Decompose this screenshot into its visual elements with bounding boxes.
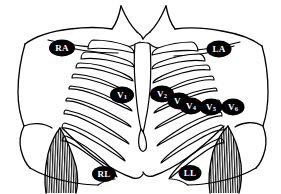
electrode-label-subscript: 5 — [213, 106, 216, 113]
electrode-label-subscript: 4 — [193, 105, 196, 112]
electrode-label: V — [206, 103, 213, 112]
electrode-marker-ll: LL — [179, 165, 202, 181]
electrode-label: V — [186, 102, 193, 111]
electrode-label: V — [228, 103, 235, 112]
electrode-label: LL — [184, 169, 196, 178]
electrode-marker-v1: V1 — [110, 87, 134, 104]
xiphoid-process — [139, 129, 147, 151]
electrode-marker-ra: RA — [49, 40, 75, 57]
electrode-marker-rl: RL — [92, 166, 116, 182]
electrode-label: V — [117, 91, 124, 100]
electrode-label: RL — [98, 170, 111, 179]
electrode-label-subscript: 2 — [164, 93, 167, 100]
electrode-label: V — [157, 90, 164, 99]
electrode-marker-v5: V5 — [200, 99, 223, 116]
electrode-label-subscript: 6 — [235, 106, 238, 113]
electrode-label: LA — [213, 45, 226, 54]
electrode-marker-v6: V6 — [222, 99, 245, 116]
ecg-electrode-placement-diagram: RALAV1V2V3V4V5V6RLLL — [0, 0, 281, 194]
electrode-marker-la: LA — [207, 41, 232, 58]
electrode-label: RA — [55, 44, 68, 53]
sternum — [134, 43, 151, 152]
torso-anatomy-illustration — [0, 0, 281, 194]
electrode-label-subscript: 1 — [124, 94, 127, 101]
